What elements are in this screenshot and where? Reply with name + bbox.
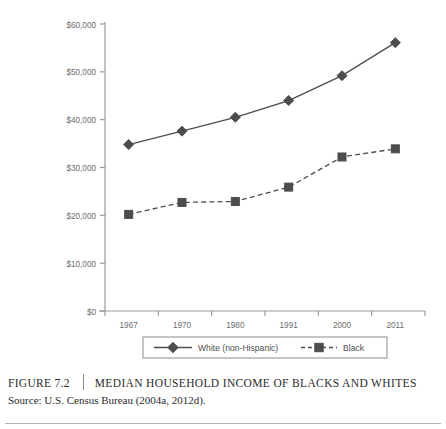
data-point-black bbox=[338, 153, 346, 161]
y-axis-tick-label: $50,000 bbox=[66, 68, 96, 77]
data-point-white-non-hispanic bbox=[230, 112, 240, 122]
y-axis-tick-label: $0 bbox=[87, 308, 97, 317]
x-axis-tick-label: 1991 bbox=[280, 321, 299, 330]
x-axis-tick-label: 2000 bbox=[333, 321, 352, 330]
x-axis-tick-label: 1967 bbox=[120, 321, 139, 330]
figure-caption-block: FIGURE 7.2 MEDIAN HOUSEHOLD INCOME OF BL… bbox=[0, 368, 446, 429]
y-axis-tick-label: $60,000 bbox=[66, 21, 96, 30]
x-axis-tick-label: 1970 bbox=[173, 321, 192, 330]
line-chart: $0$10,000$20,000$30,000$40,000$50,000$60… bbox=[0, 0, 446, 368]
data-point-black bbox=[231, 197, 239, 205]
series-line-white-non-hispanic bbox=[129, 43, 396, 145]
data-point-white-non-hispanic bbox=[177, 126, 187, 136]
figure-source: Source: U.S. Census Bureau (2004a, 2012d… bbox=[8, 394, 206, 406]
legend-marker-black-square-icon bbox=[315, 343, 323, 351]
series-line-black bbox=[129, 149, 396, 215]
data-point-black bbox=[178, 198, 186, 206]
bottom-divider bbox=[5, 423, 441, 424]
figure-number: FIGURE 7.2 bbox=[8, 377, 70, 389]
y-axis-tick-label: $10,000 bbox=[66, 260, 96, 269]
data-point-black bbox=[391, 145, 399, 153]
figure-container: $0$10,000$20,000$30,000$40,000$50,000$60… bbox=[0, 0, 446, 429]
figure-title: MEDIAN HOUSEHOLD INCOME OF BLACKS AND WH… bbox=[95, 377, 417, 389]
data-point-white-non-hispanic bbox=[284, 96, 294, 106]
data-point-black bbox=[125, 210, 133, 218]
x-axis-tick-label: 1980 bbox=[226, 321, 245, 330]
y-axis-tick-label: $40,000 bbox=[66, 116, 96, 125]
data-point-white-non-hispanic bbox=[337, 71, 347, 81]
caption-divider bbox=[83, 374, 84, 390]
legend-label-black: Black bbox=[343, 343, 365, 353]
chart-area: $0$10,000$20,000$30,000$40,000$50,000$60… bbox=[0, 0, 446, 368]
data-point-white-non-hispanic bbox=[390, 38, 400, 48]
data-point-black bbox=[285, 183, 293, 191]
y-axis-tick-label: $30,000 bbox=[66, 164, 96, 173]
legend-label-white: White (non-Hispanic) bbox=[198, 343, 278, 353]
data-point-white-non-hispanic bbox=[124, 140, 134, 150]
y-axis-tick-label: $20,000 bbox=[66, 212, 96, 221]
figure-caption-line: FIGURE 7.2 MEDIAN HOUSEHOLD INCOME OF BL… bbox=[8, 371, 438, 393]
x-axis-tick-label: 2011 bbox=[387, 321, 405, 330]
